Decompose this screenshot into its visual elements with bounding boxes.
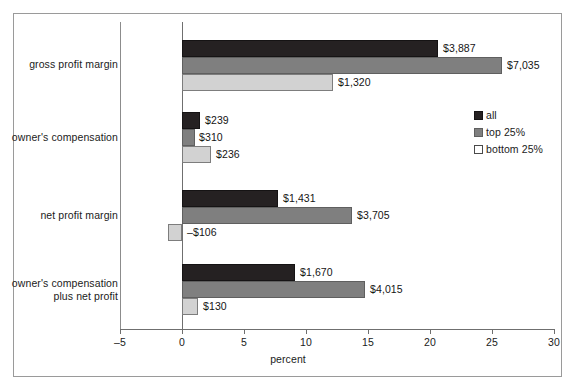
x-ticklabel-10: 10: [286, 336, 326, 348]
bar-owners-comp-plus-net-profit-all: [182, 264, 295, 281]
bar-gross-profit-margin-bottom25: [182, 74, 333, 91]
legend-label-bottom25: bottom 25%: [486, 143, 543, 155]
category-divider-line: [120, 22, 121, 329]
x-ticklabel-30: 30: [534, 336, 574, 348]
legend-swatch-all-icon: [474, 111, 483, 120]
bar-label-owners-compensation-bottom25: $236: [216, 146, 240, 163]
x-tick-0: [182, 329, 183, 334]
category-label-gross-profit-margin: gross profit margin: [0, 58, 118, 71]
bar-label-owners-comp-plus-net-profit-bottom25: $130: [203, 298, 227, 315]
bar-label-owners-compensation-all: $239: [205, 112, 229, 129]
bar-owners-comp-plus-net-profit-top25: [182, 281, 365, 298]
legend-label-top25: top 25%: [486, 126, 525, 138]
bar-label-owners-compensation-top25: $310: [199, 129, 223, 146]
bar-owners-compensation-all: [182, 112, 200, 129]
x-tick-30: [554, 329, 555, 334]
x-ticklabel-5: 5: [224, 336, 264, 348]
x-tick-minus5: [120, 329, 121, 334]
plot-area: –5 0 5 10 15 20 25 30 percent gross prof…: [0, 0, 576, 391]
x-tick-15: [368, 329, 369, 334]
bar-label-net-profit-margin-bottom25: –$106: [187, 224, 217, 241]
x-ticklabel-20: 20: [410, 336, 450, 348]
x-tick-25: [492, 329, 493, 334]
bar-owners-compensation-bottom25: [182, 146, 211, 163]
bar-gross-profit-margin-top25: [182, 57, 502, 74]
x-ticklabel-minus5: –5: [100, 336, 140, 348]
x-ticklabel-15: 15: [348, 336, 388, 348]
x-axis-line: [120, 329, 554, 330]
chart-figure: –5 0 5 10 15 20 25 30 percent gross prof…: [0, 0, 576, 391]
x-axis-title: percent: [0, 353, 576, 365]
legend-entry-bottom25: bottom 25%: [474, 142, 543, 156]
x-ticklabel-0: 0: [162, 336, 202, 348]
category-label-owners-compensation: owner's compensation: [0, 131, 118, 144]
bar-label-net-profit-margin-top25: $3,705: [357, 207, 390, 224]
bar-label-owners-comp-plus-net-profit-top25: $4,015: [370, 281, 403, 298]
category-label-owners-compensation-plus-net-profit: owner's compensation plus net profit: [0, 277, 118, 303]
chart-legend: all top 25% bottom 25%: [474, 108, 543, 159]
bar-net-profit-margin-top25: [182, 207, 352, 224]
bar-label-gross-profit-margin-top25: $7,035: [507, 57, 540, 74]
bar-label-owners-comp-plus-net-profit-all: $1,670: [300, 264, 333, 281]
legend-label-all: all: [486, 109, 497, 121]
legend-entry-all: all: [474, 108, 543, 122]
category-label-net-profit-margin: net profit margin: [0, 209, 118, 222]
bar-net-profit-margin-bottom25: [168, 224, 182, 241]
x-tick-5: [244, 329, 245, 334]
x-tick-20: [430, 329, 431, 334]
bar-label-gross-profit-margin-all: $3,887: [443, 40, 476, 57]
legend-swatch-bottom25-icon: [474, 145, 483, 154]
legend-entry-top25: top 25%: [474, 125, 543, 139]
x-ticklabel-25: 25: [472, 336, 512, 348]
bar-label-gross-profit-margin-bottom25: $1,320: [338, 74, 371, 91]
bar-net-profit-margin-all: [182, 190, 278, 207]
x-tick-10: [306, 329, 307, 334]
bar-owners-compensation-top25: [182, 129, 195, 146]
bar-gross-profit-margin-all: [182, 40, 438, 57]
legend-swatch-top25-icon: [474, 128, 483, 137]
bar-label-net-profit-margin-all: $1,431: [283, 190, 316, 207]
bar-owners-comp-plus-net-profit-bottom25: [182, 298, 198, 315]
